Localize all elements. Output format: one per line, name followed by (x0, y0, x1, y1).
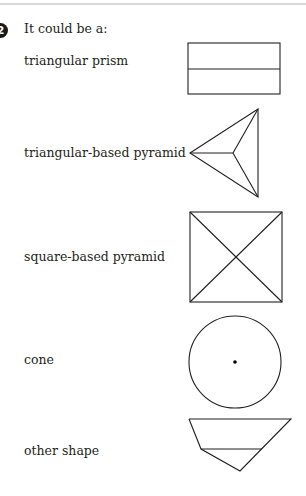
cone-top-view (189, 316, 281, 408)
triangular-prism-top-view (188, 43, 280, 94)
other-shape-top-view (189, 419, 291, 471)
square-pyramid-top-view (190, 212, 282, 302)
shapes-diagram (0, 0, 306, 496)
triangular-pyramid-top-view (190, 109, 258, 197)
